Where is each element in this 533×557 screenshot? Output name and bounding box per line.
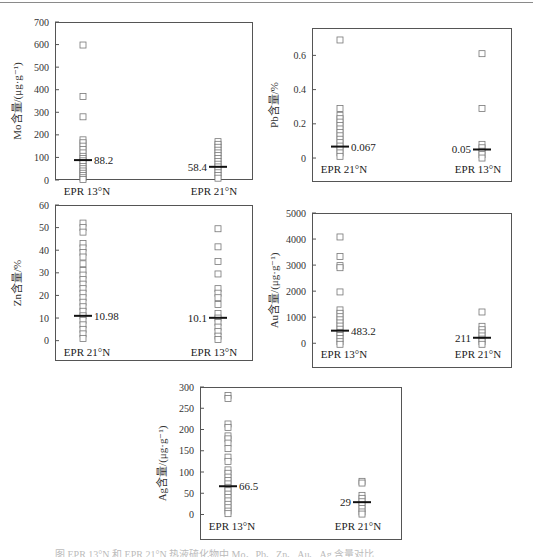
mean-label: 58.4: [188, 161, 208, 173]
data-point: [225, 440, 231, 446]
chart-panel-mo: 0100200300400500600700Mo含量/(μg·g⁻¹)88.2E…: [55, 22, 253, 184]
series-1-points: [215, 139, 221, 182]
category-label: EPR 21°N: [455, 348, 501, 360]
data-point: [215, 226, 221, 232]
y-tick-label: 60: [39, 200, 49, 211]
y-axis-label: Zn含量/%: [10, 260, 23, 306]
data-point: [225, 446, 231, 452]
mean-label: 483.2: [351, 325, 376, 337]
data-point: [215, 271, 221, 277]
y-axis-label: Au含量/(μg·g⁻¹): [267, 252, 281, 328]
y-tick-label: 100: [34, 152, 49, 163]
data-point: [225, 395, 231, 401]
series-1-points: [359, 478, 365, 517]
data-point: [337, 37, 343, 43]
mean-label: 0.067: [351, 141, 376, 153]
y-tick-label: 5000: [286, 208, 306, 219]
y-tick-label: 10: [39, 313, 49, 324]
category-label: EPR 21°N: [191, 185, 237, 197]
series-0-points: [80, 42, 86, 183]
category-label: EPR 13°N: [209, 520, 255, 532]
data-point: [225, 424, 231, 430]
category-label: EPR 13°N: [191, 346, 237, 358]
data-point: [337, 341, 343, 347]
y-tick-label: 0: [44, 175, 49, 186]
data-point: [80, 42, 86, 48]
series-1-points: [479, 51, 485, 161]
mean-label: 10.98: [94, 310, 119, 322]
y-tick-label: 3000: [286, 260, 306, 271]
data-point: [337, 265, 343, 271]
data-point: [80, 229, 86, 235]
y-tick-label: 300: [34, 107, 49, 118]
data-point: [80, 261, 86, 267]
plot-area-ag: 050100150200250300Ag含量/(μg·g⁻¹)66.5EPR 1…: [200, 387, 402, 540]
mean-label: 66.5: [239, 480, 259, 492]
category-label: EPR 21°N: [321, 163, 367, 175]
y-tick-label: 600: [34, 39, 49, 50]
data-point: [225, 511, 231, 517]
y-axis-label: Mo含量/(μg·g⁻¹): [10, 62, 24, 140]
y-tick-label: 20: [39, 290, 49, 301]
y-tick-label: 100: [179, 467, 194, 478]
plot-area-pb: 00.20.40.6Pb含量/%0.067EPR 21°N0.05EPR 13°…: [312, 28, 512, 182]
y-tick-label: 50: [39, 222, 49, 233]
plot-area-mo: 0100200300400500600700Mo含量/(μg·g⁻¹)88.2E…: [55, 22, 253, 180]
data-point: [337, 254, 343, 260]
data-point: [359, 511, 365, 517]
y-tick-label: 0.4: [294, 84, 307, 95]
mean-label: 88.2: [94, 154, 113, 166]
data-point: [215, 259, 221, 265]
y-tick-label: 40: [39, 245, 49, 256]
y-tick-label: 2000: [286, 286, 306, 297]
data-point: [215, 175, 221, 181]
data-point: [215, 301, 221, 307]
data-point: [479, 155, 485, 161]
data-point: [337, 105, 343, 111]
y-tick-label: 150: [179, 445, 194, 456]
category-label: EPR 13°N: [321, 348, 367, 360]
mean-label: 0.05: [452, 143, 472, 155]
mean-label: 10.1: [188, 312, 207, 324]
y-tick-label: 1000: [286, 312, 306, 323]
data-point: [80, 114, 86, 120]
series-0-points: [225, 393, 231, 517]
data-point: [479, 309, 485, 315]
y-axis-label: Ag含量/(μg·g⁻¹): [155, 425, 169, 501]
category-label: EPR 13°N: [64, 185, 110, 197]
mean-label: 29: [340, 496, 352, 508]
category-label: EPR 13°N: [455, 163, 501, 175]
data-point: [225, 458, 231, 464]
data-point: [479, 341, 485, 347]
data-point: [80, 93, 86, 99]
mean-label: 211: [455, 332, 471, 344]
series-0-points: [80, 220, 86, 341]
y-tick-label: 0: [301, 338, 306, 349]
data-point: [337, 153, 343, 159]
series-1-points: [479, 309, 485, 347]
figure-caption: 图 EPR 13°N 和 EPR 21°N 热液硫化物中 Mo、Pb、Zn、Au…: [55, 546, 495, 557]
page-top-rule: [0, 2, 533, 3]
data-point: [215, 295, 221, 301]
chart-panel-au: 010002000300040005000Au含量/(μg·g⁻¹)483.2E…: [312, 213, 512, 372]
data-point: [479, 51, 485, 57]
y-tick-label: 30: [39, 267, 49, 278]
data-point: [479, 105, 485, 111]
category-label: EPR 21°N: [64, 346, 110, 358]
y-tick-label: 4000: [286, 234, 306, 245]
plot-area-au: 010002000300040005000Au含量/(μg·g⁻¹)483.2E…: [312, 213, 512, 368]
y-tick-label: 0.2: [294, 118, 307, 129]
data-point: [359, 480, 365, 486]
y-axis-label: Pb含量/%: [267, 82, 280, 128]
data-point: [215, 244, 221, 250]
data-point: [80, 254, 86, 260]
y-tick-label: 0: [44, 335, 49, 346]
series-0-points: [337, 37, 343, 159]
data-point: [80, 335, 86, 341]
y-tick-label: 0: [301, 153, 306, 164]
data-point: [80, 177, 86, 183]
y-tick-label: 500: [34, 62, 49, 73]
data-point: [337, 234, 343, 240]
data-point: [215, 337, 221, 343]
y-tick-label: 0.6: [294, 50, 307, 61]
